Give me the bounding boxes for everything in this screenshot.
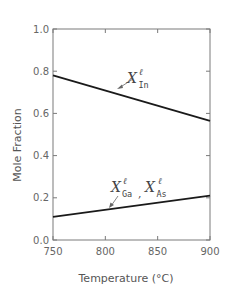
label-as-sup: ℓ — [158, 176, 162, 186]
label-ga-sup: ℓ — [123, 176, 127, 186]
x-tick-label: 750 — [43, 246, 62, 257]
arrow-in-head — [117, 85, 123, 90]
x-tick-label: 900 — [200, 246, 219, 257]
mole-fraction-chart: 0.00.20.40.60.81.0 750800850900 X ℓ In X… — [0, 0, 230, 297]
x-axis-title: Temperature (°C) — [78, 272, 174, 285]
y-tick-label: 1.0 — [33, 24, 49, 35]
y-tick-label: 0.0 — [33, 235, 49, 246]
y-tick-label: 0.2 — [33, 192, 49, 203]
label-ga-main: X — [110, 179, 122, 195]
y-axis-ticks: 0.00.20.40.60.81.0 — [33, 24, 210, 246]
x-tick-label: 800 — [96, 246, 115, 257]
label-ga-sub: Ga — [122, 189, 132, 199]
plot-frame — [53, 29, 210, 240]
label-in-sup: ℓ — [139, 67, 143, 77]
label-in-main: X — [126, 70, 138, 86]
label-separator: , — [138, 187, 142, 200]
y-tick-label: 0.4 — [33, 150, 49, 161]
x-axis-ticks: 750800850900 — [43, 29, 219, 257]
y-tick-label: 0.6 — [33, 108, 49, 119]
annotation-in: X ℓ In — [117, 67, 149, 90]
x-tick-label: 850 — [148, 246, 167, 257]
label-in-sub: In — [139, 80, 149, 90]
label-as-sub: As — [157, 189, 167, 199]
y-tick-label: 0.8 — [33, 66, 49, 77]
y-axis-title: Mole Fraction — [11, 108, 24, 181]
label-as-main: X — [144, 179, 156, 195]
